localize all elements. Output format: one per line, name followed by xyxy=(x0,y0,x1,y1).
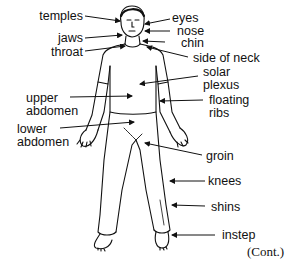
label-shins: shins xyxy=(211,201,240,214)
label-upper-abdomen-line2: abdomen xyxy=(26,105,78,118)
body-points-diagram: temples jaws throat eyes nose chin side … xyxy=(0,0,291,264)
label-temples: temples xyxy=(39,10,83,23)
label-side-of-neck: side of neck xyxy=(193,52,260,65)
label-jaws: jaws xyxy=(58,32,83,45)
continuation-note: (Cont.) xyxy=(247,244,284,260)
label-groin: groin xyxy=(206,150,234,163)
label-chin: chin xyxy=(181,37,204,50)
label-floating-ribs-line2: ribs xyxy=(209,107,229,120)
label-lower-abdomen-line2: abdomen xyxy=(17,136,69,149)
label-throat: throat xyxy=(51,46,83,59)
label-instep: instep xyxy=(222,229,255,242)
label-solar-plexus-line2: plexus xyxy=(203,79,239,92)
label-knees: knees xyxy=(208,175,241,188)
